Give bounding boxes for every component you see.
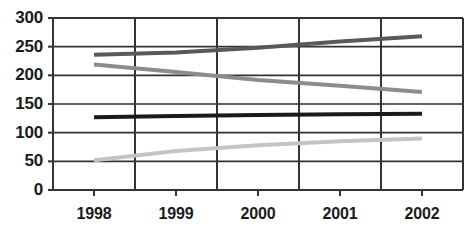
line-chart: 300250200150100500 19981999200020012002 (0, 0, 469, 243)
x-tick-label-2000: 2000 (218, 206, 298, 222)
x-tick-label-2001: 2001 (300, 206, 380, 222)
x-tick-label-1998: 1998 (54, 206, 134, 222)
x-axis-tick-labels: 19981999200020012002 (0, 0, 469, 243)
x-tick-label-1999: 1999 (136, 206, 216, 222)
x-tick-label-2002: 2002 (382, 206, 462, 222)
